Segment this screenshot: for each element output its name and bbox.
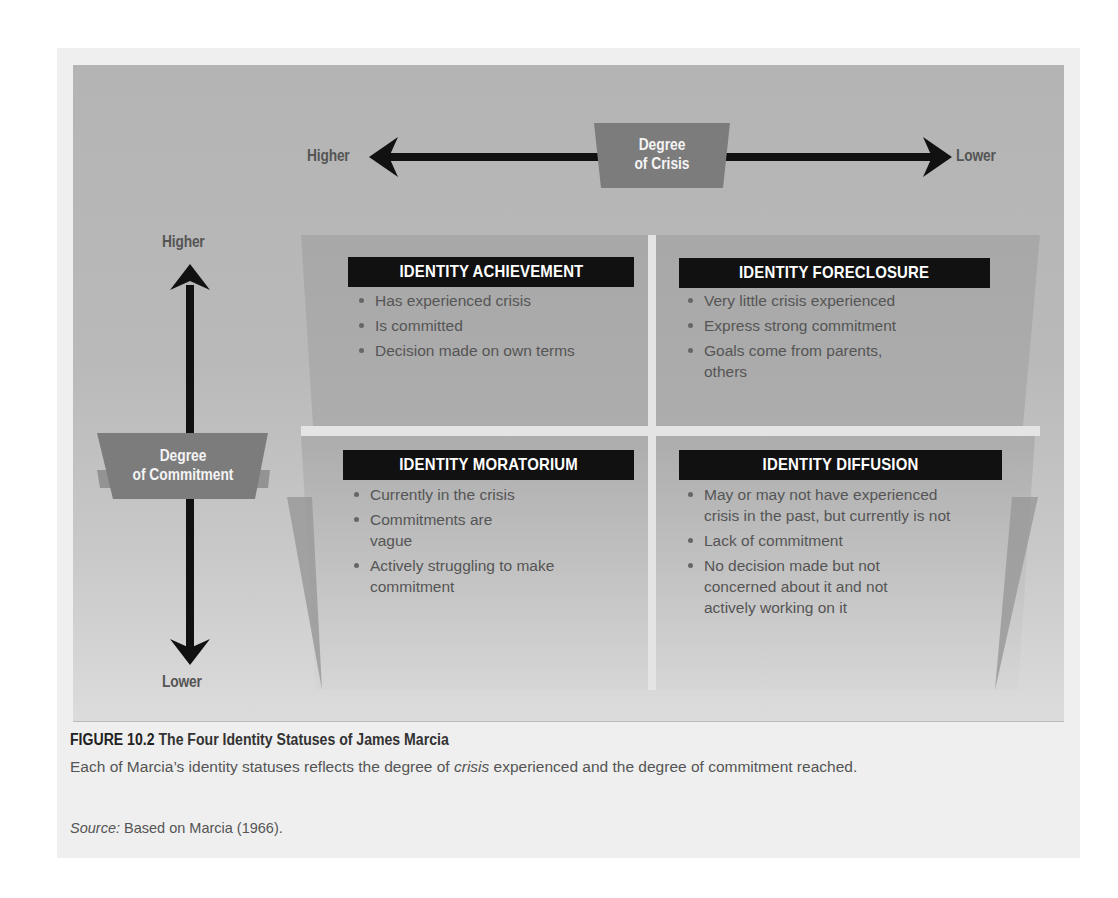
bullet-item: Lack of commitment: [684, 530, 984, 551]
bullet-item: No decision made but not concerned about…: [684, 555, 929, 618]
quadrant-title: IDENTITY FORECLOSURE: [679, 258, 990, 288]
quadrant-bullets: May or may not have experienced crisis i…: [684, 484, 984, 622]
bullet-item: Decision made on own terms: [355, 340, 585, 361]
quadrant-title: IDENTITY DIFFUSION: [679, 450, 1002, 480]
figure-number: FIGURE 10.2: [70, 731, 155, 748]
bullet-item: Express strong commitment: [684, 315, 984, 336]
bullet-item: May or may not have experienced crisis i…: [684, 484, 959, 526]
source-text: Based on Marcia (1966).: [120, 820, 283, 836]
quadrant-bullets: Currently in the crisis Commitments are …: [350, 484, 600, 601]
commitment-higher-label: Higher: [162, 233, 205, 251]
bullet-item: Commitments are vague: [350, 509, 525, 551]
quadrant-bullets: Has experienced crisis Is committed Deci…: [355, 290, 625, 365]
emphasis-crisis: crisis: [454, 758, 489, 775]
bullet-item: Has experienced crisis: [355, 290, 625, 311]
crisis-badge-line1: Degree: [610, 135, 713, 154]
bullet-item: Goals come from parents, others: [684, 340, 929, 382]
quadrant-bullets: Very little crisis experienced Express s…: [684, 290, 984, 386]
crisis-badge-label: Degree of Crisis: [610, 135, 713, 173]
commitment-badge-line1: Degree: [115, 446, 251, 465]
crisis-lower-label: Lower: [956, 147, 996, 165]
bullet-item: Actively struggling to make commitment: [350, 555, 570, 597]
bullet-item: Currently in the crisis: [350, 484, 600, 505]
horizontal-divider: [301, 426, 1040, 436]
figure-title: The Four Identity Statuses of James Marc…: [158, 731, 448, 748]
bullet-item: Is committed: [355, 315, 625, 336]
figure-caption-body: Each of Marcia’s identity statuses refle…: [70, 755, 1030, 779]
commitment-badge-label: Degree of Commitment: [115, 446, 251, 484]
figure-caption-title: FIGURE 10.2 The Four Identity Statuses o…: [70, 731, 449, 749]
vertical-divider: [648, 235, 656, 690]
source-label: Source:: [70, 820, 120, 836]
bullet-item: Very little crisis experienced: [684, 290, 984, 311]
crisis-badge-line2: of Crisis: [610, 154, 713, 173]
commitment-lower-label: Lower: [162, 673, 202, 691]
quadrant-title: IDENTITY MORATORIUM: [343, 450, 634, 480]
crisis-higher-label: Higher: [307, 147, 350, 165]
quadrant-title: IDENTITY ACHIEVEMENT: [348, 257, 634, 287]
figure-source: Source: Based on Marcia (1966).: [70, 820, 283, 836]
commitment-badge-line2: of Commitment: [115, 465, 251, 484]
